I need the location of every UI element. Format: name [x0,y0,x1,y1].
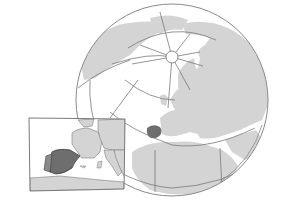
locator-map [0,0,290,204]
inset-map [29,118,125,191]
north-pole-ring [166,51,178,63]
